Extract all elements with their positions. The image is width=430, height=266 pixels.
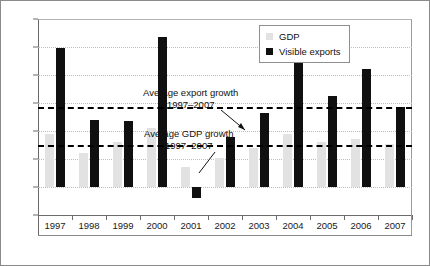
x-tick-mark-5 (208, 215, 209, 220)
bar-visible-exports-2006 (362, 69, 372, 187)
bar-gdp-1997 (45, 134, 55, 187)
legend-swatch-gdp-icon (266, 33, 273, 40)
x-tick-label-2003: 2003 (248, 220, 269, 231)
bar-visible-exports-1999 (124, 121, 134, 187)
x-tick-label-2007: 2007 (384, 220, 405, 231)
legend-label-visible-exports: Visible exports (279, 46, 341, 57)
bar-visible-exports-2001 (192, 187, 202, 198)
gridline-0 (38, 187, 412, 188)
annotation-gdp-leader-line (197, 151, 227, 177)
legend-label-gdp: GDP (279, 31, 300, 42)
x-tick-mark-end (412, 215, 413, 220)
chart-figure: -2024681012 1997199819992000200120022003… (0, 0, 430, 266)
annotation-average-gdp-growth: Average GDP growth 1997–2007 (144, 128, 233, 151)
x-tick-mark-7 (276, 215, 277, 220)
legend-item-gdp: GDP (266, 30, 341, 43)
bar-visible-exports-2000 (158, 37, 168, 187)
x-tick-label-2001: 2001 (180, 220, 201, 231)
x-tick-label-2000: 2000 (146, 220, 167, 231)
bar-gdp-1998 (79, 153, 89, 187)
legend-swatch-visible-exports-icon (266, 48, 273, 55)
bar-gdp-1999 (113, 142, 123, 187)
y-tick-mark-8 (33, 75, 38, 76)
y-tick-mark-6 (33, 103, 38, 104)
legend-item-visible-exports: Visible exports (266, 45, 341, 58)
gridline-10 (38, 47, 412, 48)
x-axis-line (38, 215, 412, 216)
x-tick-mark-4 (174, 215, 175, 220)
x-tick-mark-9 (344, 215, 345, 220)
annotation-export-line2: 1997–2007 (143, 99, 238, 111)
annotation-average-export-growth: Average export growth 1997–2007 (143, 87, 238, 110)
y-tick-mark-12 (33, 19, 38, 20)
annotation-gdp-line2: 1997–2007 (144, 140, 233, 152)
bar-visible-exports-2005 (328, 96, 338, 187)
y-tick-mark-10 (33, 47, 38, 48)
x-tick-label-2006: 2006 (350, 220, 371, 231)
figure-bottom-border (38, 235, 412, 236)
bar-gdp-2001 (181, 167, 191, 187)
x-tick-label-1997: 1997 (44, 220, 65, 231)
annotation-gdp-line1: Average GDP growth (144, 128, 233, 140)
x-tick-mark-3 (140, 215, 141, 220)
bar-gdp-2005 (317, 142, 327, 187)
bar-gdp-2003 (249, 148, 259, 187)
x-tick-mark-8 (310, 215, 311, 220)
bar-visible-exports-1998 (90, 120, 100, 187)
annotation-export-line1: Average export growth (143, 87, 238, 99)
x-tick-label-2005: 2005 (316, 220, 337, 231)
bar-visible-exports-2004 (294, 50, 304, 187)
x-tick-mark-0 (38, 215, 39, 220)
x-tick-mark-1 (72, 215, 73, 220)
bar-visible-exports-1997 (56, 48, 66, 187)
y-tick-mark-4 (33, 131, 38, 132)
chart-legend: GDP Visible exports (259, 25, 350, 63)
bar-visible-exports-2007 (396, 107, 406, 187)
y-tick-mark-2 (33, 159, 38, 160)
x-tick-label-2004: 2004 (282, 220, 303, 231)
gridline-8 (38, 75, 412, 76)
y-tick-mark-0 (33, 187, 38, 188)
x-tick-mark-6 (242, 215, 243, 220)
bar-visible-exports-2003 (260, 113, 270, 187)
bar-gdp-2004 (283, 134, 293, 187)
x-tick-mark-10 (378, 215, 379, 220)
x-tick-mark-2 (106, 215, 107, 220)
x-tick-label-1999: 1999 (112, 220, 133, 231)
x-tick-label-1998: 1998 (78, 220, 99, 231)
bar-gdp-2007 (385, 144, 395, 187)
x-tick-label-2002: 2002 (214, 220, 235, 231)
